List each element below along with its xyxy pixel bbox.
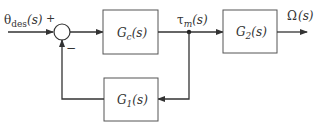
feedback-label: G1(s) bbox=[117, 93, 148, 109]
controller-label: Gc(s) bbox=[117, 26, 147, 42]
output-label: Ω(s) bbox=[287, 9, 314, 23]
summing-junction bbox=[54, 24, 70, 40]
minus-sign: − bbox=[66, 41, 76, 55]
plant-label: G2(s) bbox=[236, 25, 267, 41]
plus-sign: + bbox=[46, 12, 55, 25]
torque-label: τm(s) bbox=[177, 13, 208, 29]
feedback-path-in bbox=[158, 32, 189, 99]
block-diagram: θdes(s) + − Gc(s) τm(s) G2(s) Ω(s) G1(s) bbox=[0, 0, 323, 127]
input-label: θdes(s) bbox=[4, 13, 43, 29]
